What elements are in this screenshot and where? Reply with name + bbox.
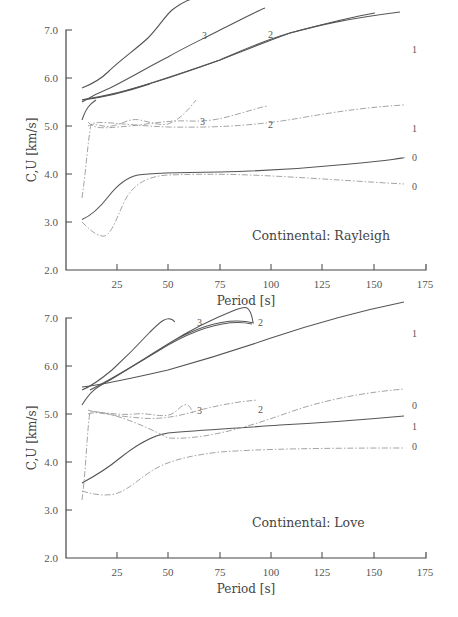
love-x-axis-title: Period [s] bbox=[217, 582, 275, 596]
love-panel: 7.0 6.0 5.0 4.0 3.0 2.0 25 50 75 100 125… bbox=[25, 302, 434, 596]
love-ytick-4: 4.0 bbox=[44, 456, 58, 468]
rayleigh-xtick-125: 125 bbox=[314, 278, 331, 290]
love-label-c2: 2 bbox=[258, 317, 263, 328]
rayleigh-xtick-50: 50 bbox=[163, 278, 175, 290]
rayleigh-ytick-5: 5.0 bbox=[44, 120, 58, 132]
love-c-mode-2 bbox=[82, 307, 254, 405]
love-label-c1: 1 bbox=[412, 328, 417, 339]
figure: 7.0 6.0 5.0 4.0 3.0 2.0 25 50 75 100 125… bbox=[0, 0, 458, 617]
love-u-mode-2 bbox=[88, 400, 258, 419]
rayleigh-ytick-3: 3.0 bbox=[44, 216, 58, 228]
rayleigh-xtick-100: 100 bbox=[263, 278, 280, 290]
love-y-axis-title: C,U [km/s] bbox=[25, 406, 39, 471]
rayleigh-x-axis-title: Period [s] bbox=[217, 294, 275, 308]
rayleigh-label-u3: 3 bbox=[200, 116, 205, 127]
love-y-ticks bbox=[66, 366, 72, 510]
rayleigh-xtick-150: 150 bbox=[366, 278, 383, 290]
rayleigh-y-axis-title: C,U [km/s] bbox=[25, 118, 39, 183]
love-ytick-6: 6.0 bbox=[44, 360, 58, 372]
rayleigh-c-mode-0-start bbox=[82, 100, 96, 120]
love-label-c0: 1 bbox=[412, 421, 417, 432]
love-c-mode-0 bbox=[82, 416, 404, 483]
rayleigh-c-mode-0 bbox=[82, 157, 404, 219]
love-xtick-75: 75 bbox=[215, 566, 227, 578]
rayleigh-u-mode-3 bbox=[88, 100, 196, 126]
love-c-mode-2b bbox=[90, 322, 252, 390]
rayleigh-xtick-75: 75 bbox=[215, 278, 227, 290]
rayleigh-ytick-7: 7.0 bbox=[44, 24, 58, 36]
love-label-u3: 3 bbox=[197, 405, 202, 416]
rayleigh-ytick-4: 4.0 bbox=[44, 168, 58, 180]
rayleigh-c-mode-2 bbox=[82, 8, 265, 102]
love-c-mode-1 bbox=[82, 302, 404, 387]
rayleigh-xtick-175: 175 bbox=[417, 278, 434, 290]
love-label-u0: 0 bbox=[412, 441, 417, 452]
rayleigh-u-mode-1 bbox=[82, 105, 404, 198]
rayleigh-u-mode-2 bbox=[88, 106, 268, 128]
love-xtick-125: 125 bbox=[314, 566, 331, 578]
rayleigh-c-mode-1b bbox=[82, 12, 400, 100]
love-x-ticks bbox=[117, 552, 374, 558]
rayleigh-label-u0: 0 bbox=[412, 181, 417, 192]
rayleigh-ytick-6: 6.0 bbox=[44, 72, 58, 84]
love-ytick-7: 7.0 bbox=[44, 312, 58, 324]
love-xtick-150: 150 bbox=[366, 566, 383, 578]
love-xtick-100: 100 bbox=[263, 566, 280, 578]
love-u-mode-0 bbox=[82, 448, 404, 495]
rayleigh-label-c2: 2 bbox=[268, 29, 273, 40]
love-xtick-25: 25 bbox=[112, 566, 124, 578]
love-axes bbox=[66, 318, 426, 558]
rayleigh-u-mode-0 bbox=[82, 174, 404, 236]
love-label-u2: 2 bbox=[258, 404, 263, 415]
love-c-mode-3 bbox=[82, 319, 175, 390]
rayleigh-label-c0: 0 bbox=[412, 152, 417, 163]
love-label-u1: 0 bbox=[412, 400, 417, 411]
love-label-c3: 3 bbox=[197, 317, 202, 328]
rayleigh-ytick-2: 2.0 bbox=[44, 264, 58, 276]
love-ytick-3: 3.0 bbox=[44, 504, 58, 516]
rayleigh-label-c1: 1 bbox=[412, 44, 417, 55]
love-xtick-175: 175 bbox=[417, 566, 434, 578]
love-ytick-5: 5.0 bbox=[44, 408, 58, 420]
love-ytick-2: 2.0 bbox=[44, 552, 58, 564]
rayleigh-y-ticks bbox=[66, 78, 72, 222]
rayleigh-label-u2: 2 bbox=[268, 119, 273, 130]
rayleigh-label-u1: 1 bbox=[412, 123, 417, 134]
love-u-mode-1 bbox=[82, 389, 404, 500]
rayleigh-xtick-25: 25 bbox=[112, 278, 124, 290]
rayleigh-panel: 7.0 6.0 5.0 4.0 3.0 2.0 25 50 75 100 125… bbox=[25, 0, 434, 308]
love-panel-title: Continental: Love bbox=[252, 515, 365, 530]
love-xtick-50: 50 bbox=[163, 566, 175, 578]
rayleigh-label-c3: 3 bbox=[202, 30, 207, 41]
rayleigh-panel-title: Continental: Rayleigh bbox=[252, 228, 390, 243]
rayleigh-x-ticks bbox=[117, 264, 374, 270]
